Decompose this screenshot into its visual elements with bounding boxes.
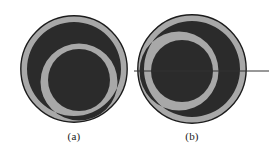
panel-a-inner-disc [48,49,110,111]
panel-b [134,15,269,123]
figure-diagram [0,0,269,158]
figure-container: (a) (b) [0,0,269,158]
panel-a-caption: (a) [54,130,94,142]
panel-a [21,16,127,122]
panel-b-caption: (b) [172,130,212,142]
